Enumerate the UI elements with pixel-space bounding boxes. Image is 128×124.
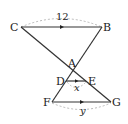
point-label-d: D [56,75,65,88]
parallel-arrow-icon [80,100,84,104]
point-label-f: F [43,96,51,109]
geometry-diagram: C B A D E F G 12 x y [0,0,128,124]
segment-cg [21,27,111,102]
point-label-a: A [67,57,77,70]
point-label-c: C [10,21,18,34]
measure-de: x [74,82,80,93]
measure-cb: 12 [56,11,69,22]
point-label-e: E [88,75,96,88]
measure-fg: y [79,105,86,116]
parallel-arrow-icon [60,25,64,29]
point-label-g: G [112,96,121,109]
point-label-b: B [103,21,111,34]
